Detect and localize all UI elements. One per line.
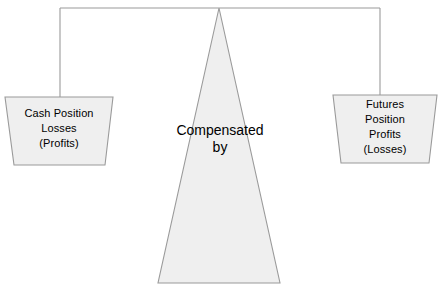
balance-scale-diagram: Cash Position Losses (Profits) Compensat…	[0, 0, 440, 291]
futures-position-pan-shape	[333, 95, 437, 163]
fulcrum-triangle	[158, 8, 280, 283]
cash-position-pan-shape	[5, 97, 113, 165]
scale-drawing	[0, 0, 440, 291]
